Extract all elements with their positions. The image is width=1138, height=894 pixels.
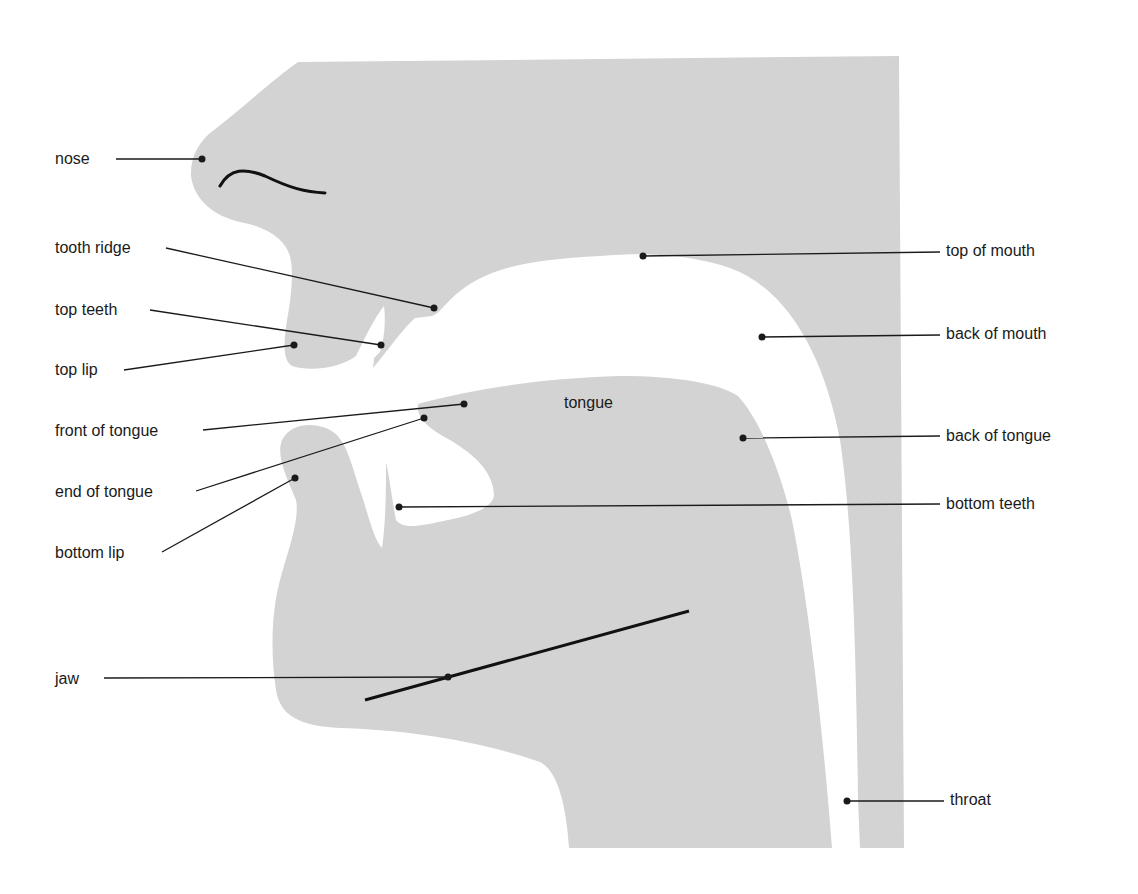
label-throat: throat	[950, 791, 991, 809]
label-bottom-teeth: bottom teeth	[946, 495, 1035, 513]
top-lip-point	[291, 342, 298, 349]
label-tooth-ridge: tooth ridge	[55, 239, 131, 257]
bottom-lip-leader-line	[162, 478, 295, 552]
top-lip-leader-line	[124, 345, 294, 370]
nose-point	[199, 156, 206, 163]
label-top-teeth: top teeth	[55, 301, 117, 319]
top-teeth-point	[378, 342, 385, 349]
throat-point	[844, 798, 851, 805]
label-bottom-lip: bottom lip	[55, 544, 124, 562]
label-top-lip: top lip	[55, 361, 98, 379]
label-back-of-tongue: back of tongue	[946, 427, 1051, 445]
tongue-inner-label: tongue	[564, 394, 613, 412]
back-of-mouth-point	[759, 334, 766, 341]
top-of-mouth-point	[640, 253, 647, 260]
end-of-tongue-point	[421, 415, 428, 422]
jaw-point	[445, 674, 452, 681]
bottom-lip-point	[292, 475, 299, 482]
front-of-tongue-point	[461, 401, 468, 408]
back-of-tongue-point	[740, 435, 747, 442]
label-top-of-mouth: top of mouth	[946, 242, 1035, 260]
vocal-tract-diagram	[0, 0, 1138, 894]
label-jaw: jaw	[55, 670, 79, 688]
label-back-of-mouth: back of mouth	[946, 325, 1047, 343]
tongue-jaw-shape	[273, 376, 832, 848]
label-front-of-tongue: front of tongue	[55, 422, 158, 440]
bottom-teeth-point	[396, 504, 403, 511]
tooth-ridge-point	[431, 305, 438, 312]
label-end-of-tongue: end of tongue	[55, 483, 153, 501]
label-nose: nose	[55, 150, 90, 168]
